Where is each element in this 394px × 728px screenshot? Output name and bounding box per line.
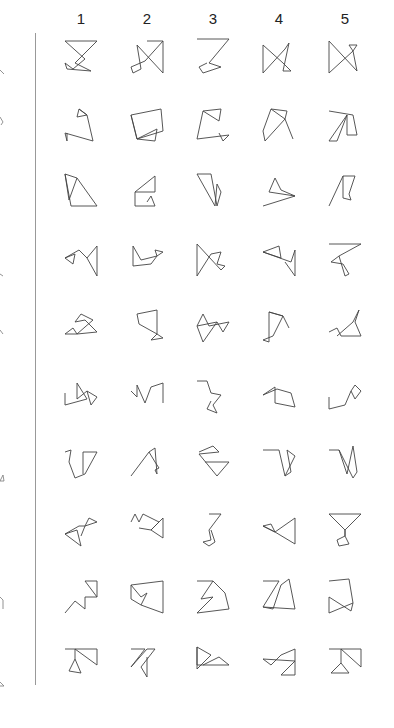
column-header-2: 2 <box>137 10 157 27</box>
column-header-1: 1 <box>71 10 91 27</box>
divider-line <box>35 33 36 685</box>
column-header-3: 3 <box>203 10 223 27</box>
cropped-fragment <box>0 70 4 78</box>
line-figure-r5-c1 <box>61 306 101 346</box>
line-figure-r4-c1 <box>61 240 101 280</box>
column-header-5: 5 <box>335 10 355 27</box>
line-figure-r3-c3 <box>193 170 233 210</box>
line-figure-r5-c3 <box>193 306 233 346</box>
cropped-fragment <box>0 272 4 280</box>
cropped-fragment <box>0 682 4 690</box>
line-figure-r4-c5 <box>325 240 365 280</box>
line-figure-r10-c4 <box>259 645 299 685</box>
line-figure-r2-c4 <box>259 105 299 145</box>
line-figure-r10-c3 <box>193 645 233 685</box>
line-figure-r9-c4 <box>259 577 299 617</box>
line-figure-r5-c4 <box>259 306 299 346</box>
line-figure-r3-c2 <box>127 170 167 210</box>
line-figure-r7-c5 <box>325 442 365 482</box>
line-figure-r4-c4 <box>259 240 299 280</box>
line-figure-r6-c4 <box>259 377 299 417</box>
line-figure-r2-c2 <box>127 105 167 145</box>
column-header-4: 4 <box>269 10 289 27</box>
line-figure-r8-c1 <box>61 510 101 550</box>
line-figure-r9-c5 <box>325 577 365 617</box>
line-figure-r6-c2 <box>127 377 167 417</box>
cropped-fragment <box>0 330 4 338</box>
line-figure-r2-c3 <box>193 105 233 145</box>
line-figure-r1-c4 <box>259 37 299 77</box>
line-figure-r6-c5 <box>325 377 365 417</box>
line-figure-r10-c1 <box>61 645 101 685</box>
line-figure-r2-c1 <box>61 105 101 145</box>
line-figure-r4-c3 <box>193 240 233 280</box>
line-figure-r7-c1 <box>61 442 101 482</box>
line-figure-r8-c2 <box>127 510 167 550</box>
line-figure-r7-c2 <box>127 442 167 482</box>
line-figure-r8-c5 <box>325 510 365 550</box>
line-figure-r3-c4 <box>259 170 299 210</box>
line-figure-r10-c5 <box>325 645 365 685</box>
line-figure-r1-c2 <box>127 37 167 77</box>
cropped-fragment <box>0 475 4 483</box>
line-figure-r3-c1 <box>61 170 101 210</box>
line-figure-r1-c5 <box>325 37 365 77</box>
line-figure-r8-c3 <box>193 510 233 550</box>
line-figure-r9-c3 <box>193 577 233 617</box>
line-figure-r8-c4 <box>259 510 299 550</box>
line-figure-r3-c5 <box>325 170 365 210</box>
line-figure-r1-c1 <box>61 37 101 77</box>
line-figure-r2-c5 <box>325 105 365 145</box>
line-figure-r1-c3 <box>193 37 233 77</box>
line-figure-r4-c2 <box>127 240 167 280</box>
line-figure-r9-c2 <box>127 577 167 617</box>
line-figure-r5-c2 <box>127 306 167 346</box>
line-figure-r9-c1 <box>61 577 101 617</box>
line-figure-r7-c4 <box>259 442 299 482</box>
line-figure-r7-c3 <box>193 442 233 482</box>
line-figure-r10-c2 <box>127 645 167 685</box>
line-figure-r6-c1 <box>61 377 101 417</box>
cropped-fragment <box>0 117 4 125</box>
line-figure-r5-c5 <box>325 306 365 346</box>
cropped-fragment <box>0 597 4 605</box>
line-figure-r6-c3 <box>193 377 233 417</box>
